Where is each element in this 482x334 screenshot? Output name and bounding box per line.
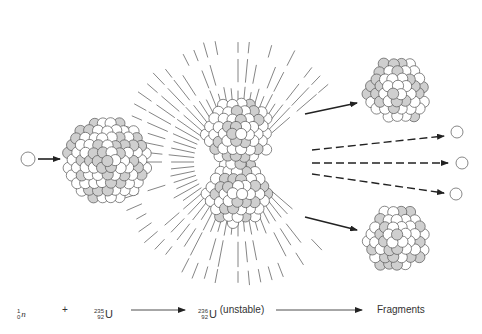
uranium-235-symbol: 23592U [94,304,113,320]
neutron-symbol: 10n [17,304,26,320]
fission-fragment-top [362,58,429,122]
fragments-label: Fragments [377,304,425,315]
uranium-236-nucleus-bottom-lobe [201,159,273,228]
uranium-236-symbol: 23692U (unstable) [198,304,264,320]
fission-diagram [0,0,482,334]
released-neutrons [450,126,468,200]
plus-sign: + [62,304,68,315]
fission-fragment-bottom [362,206,429,270]
unstable-label: (unstable) [220,304,264,315]
incoming-neutron [21,152,35,166]
fragment-arrow-top [305,103,357,114]
neutron-arrow-3 [312,174,444,193]
fragment-arrow-bottom [305,217,357,230]
neutron-arrow-1 [312,136,444,150]
uranium-235-nucleus [63,118,152,203]
